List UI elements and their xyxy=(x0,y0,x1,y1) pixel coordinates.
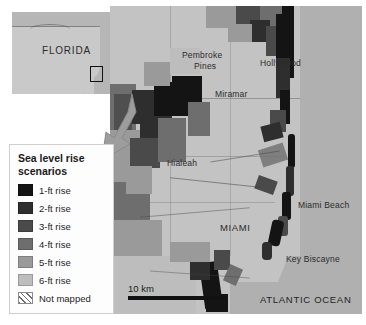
inundation-polygon xyxy=(172,76,202,102)
legend-item-6ft[interactable]: 6-ft rise xyxy=(18,271,106,289)
label-miramar: Miramar xyxy=(215,89,248,99)
inundation-polygon xyxy=(126,166,152,194)
label-atlantic-ocean: ATLANTIC OCEAN xyxy=(260,294,351,305)
legend-item-2ft[interactable]: 2-ft rise xyxy=(18,199,106,217)
florida-inset-map[interactable]: FLORIDA xyxy=(12,12,110,94)
label-miami: MIAMI xyxy=(220,222,250,233)
label-pembroke-pines-line1: Pembroke xyxy=(182,50,222,60)
study-area-locator-box xyxy=(90,66,103,82)
sea-level-rise-map-figure: Pembroke Pines Hollywood Miramar Hialeah… xyxy=(0,0,366,325)
legend-item-1ft[interactable]: 1-ft rise xyxy=(18,181,106,199)
label-key-biscayne: Key Biscayne xyxy=(286,254,340,264)
main-map[interactable]: Pembroke Pines Hollywood Miramar Hialeah… xyxy=(110,6,362,314)
inundation-polygon xyxy=(228,24,252,42)
scale-bar-line xyxy=(128,296,226,300)
legend-item-not-mapped[interactable]: Not mapped xyxy=(18,289,106,307)
legend-title-line1: Sea level rise xyxy=(18,152,106,165)
legend-item-5ft[interactable]: 5-ft rise xyxy=(18,253,106,271)
label-miami-beach: Miami Beach xyxy=(298,200,349,210)
inundation-polygon xyxy=(170,242,210,262)
legend-label-4ft: 4-ft rise xyxy=(39,239,71,250)
scale-bar-label: 10 km xyxy=(128,283,226,294)
legend-label-not-mapped: Not mapped xyxy=(39,293,91,304)
legend-label-5ft: 5-ft rise xyxy=(39,257,71,268)
legend-title-line2: scenarios xyxy=(18,165,106,178)
legend-swatch-4ft xyxy=(18,238,33,250)
legend-item-3ft[interactable]: 3-ft rise xyxy=(18,217,106,235)
inundation-polygon xyxy=(188,102,210,136)
inundation-polygon xyxy=(158,118,186,162)
label-hollywood: Hollywood xyxy=(260,58,301,68)
legend-swatch-2ft xyxy=(18,202,33,214)
legend-swatch-3ft xyxy=(18,220,33,232)
grid-line xyxy=(230,6,231,256)
label-florida: FLORIDA xyxy=(42,45,91,56)
legend-swatch-1ft xyxy=(18,184,33,196)
legend-swatch-not-mapped xyxy=(18,292,33,304)
legend-label-1ft: 1-ft rise xyxy=(39,185,71,196)
label-pembroke-pines-line2: Pines xyxy=(194,61,216,71)
legend-label-2ft: 2-ft rise xyxy=(39,203,71,214)
legend-label-3ft: 3-ft rise xyxy=(39,221,71,232)
inset-border-curve xyxy=(30,24,70,35)
key-biscayne-island xyxy=(262,242,272,260)
barrier-island xyxy=(288,134,295,168)
legend-swatch-6ft xyxy=(18,274,33,286)
legend-label-6ft: 6-ft rise xyxy=(39,275,71,286)
scale-bar: 10 km xyxy=(128,283,226,300)
legend-item-4ft[interactable]: 4-ft rise xyxy=(18,235,106,253)
inundation-polygon xyxy=(144,62,170,86)
legend-title: Sea level rise scenarios xyxy=(18,152,106,177)
legend-swatch-5ft xyxy=(18,256,33,268)
label-hialeah: Hialeah xyxy=(167,158,197,168)
legend: Sea level rise scenarios 1-ft rise 2-ft … xyxy=(9,144,114,314)
